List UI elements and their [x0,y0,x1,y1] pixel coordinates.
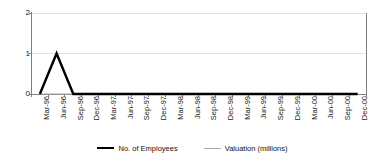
legend-item-label: Valuation (millions) [225,144,288,153]
x-axis-tick-label: Dec-96 [93,96,101,136]
x-axis-tick-label: Mar-97 [110,96,118,136]
y-axis-tick-label: 2 [4,9,30,17]
chart-legend: No. of Employees Valuation (millions) [0,139,385,157]
plot-svg [0,0,385,100]
x-axis-tick-label: Jun-00 [327,96,335,136]
x-axis-tick-label: Sep-97 [143,96,151,136]
x-axis-tick-labels: Mar-96Jun-96Sep-96Dec-96Mar-97Jun-97Sep-… [0,93,385,139]
legend-item-employees: No. of Employees [97,144,177,153]
legend-swatch-line-icon [204,148,221,149]
x-axis-tick-label: Dec-97 [160,96,168,136]
y-axis-tick-label: 1 [4,50,30,58]
x-axis-tick-label: Mar-99 [244,96,252,136]
line-chart: 012 Mar-96Jun-96Sep-96Dec-96Mar-97Jun-97… [0,0,385,162]
legend-item-valuation: Valuation (millions) [204,144,288,153]
legend-swatch-line-icon [97,147,114,149]
x-axis-tick-label: Sep-99 [277,96,285,136]
legend-item-label: No. of Employees [118,144,177,153]
x-axis-tick-label: Mar-98 [177,96,185,136]
x-axis-tick-label: Jun-99 [260,96,268,136]
x-axis-tick-label: Sep-00 [344,96,352,136]
y-axis-tick-labels: 012 [0,0,30,100]
x-axis-tick-label: Sep-98 [210,96,218,136]
x-axis-tick-label: Jun-98 [194,96,202,136]
x-axis-tick-label: Dec-98 [227,96,235,136]
x-axis-tick-label: Mar-96 [43,96,51,136]
x-axis-tick-label: Dec-99 [294,96,302,136]
x-axis-tick-label: Jun-96 [60,96,68,136]
plot-area [0,0,385,100]
x-axis-tick-label: Jun-97 [127,96,135,136]
x-axis-tick-label: Dec-00 [361,96,369,136]
x-axis-tick-label: Mar-00 [311,96,319,136]
x-axis-tick-label: Sep-96 [77,96,85,136]
